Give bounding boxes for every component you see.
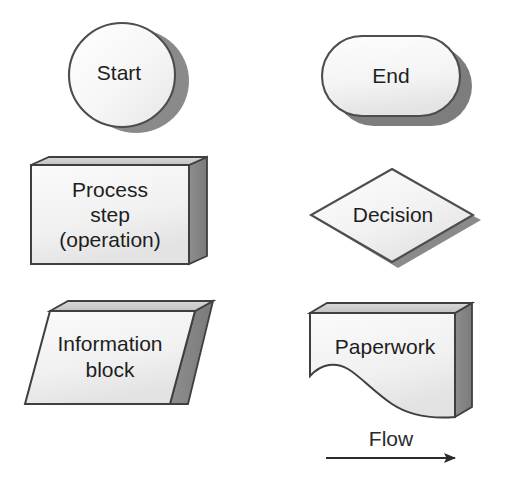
decision-label: Decision — [353, 203, 434, 226]
information-top-face — [50, 301, 213, 311]
flow-arrow-label: Flow — [369, 427, 414, 450]
process-top-face — [31, 157, 207, 165]
flowchart-symbol-legend: Start End Process step (operation) Decis… — [0, 0, 507, 486]
symbol-process-step: Process step (operation) — [31, 157, 207, 264]
process-label-line-2: step — [90, 203, 130, 226]
process-side-face — [189, 157, 207, 264]
symbol-paperwork: Paperwork — [310, 303, 472, 418]
paperwork-front-face — [310, 313, 455, 418]
paperwork-top-face — [310, 303, 472, 313]
start-label: Start — [97, 61, 142, 84]
information-label-line-2: block — [85, 358, 135, 381]
end-label: End — [372, 64, 409, 87]
flow-arrow-group: Flow — [326, 427, 455, 458]
symbol-start: Start — [69, 23, 189, 133]
paperwork-side-face — [455, 303, 472, 417]
symbol-end: End — [322, 36, 472, 126]
paperwork-label: Paperwork — [335, 335, 436, 358]
information-label-line-1: Information — [57, 332, 162, 355]
process-label-line-1: Process — [72, 178, 148, 201]
process-label-line-3: (operation) — [59, 228, 161, 251]
symbol-decision: Decision — [311, 169, 481, 268]
symbol-information-block: Information block — [25, 301, 213, 404]
